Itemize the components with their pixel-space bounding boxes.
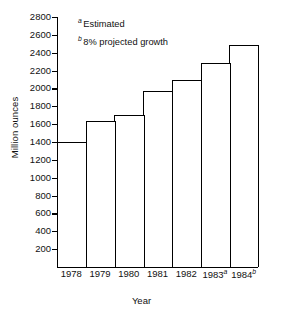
y-tick-label: 400 [35, 227, 51, 237]
y-tick-label: 2600 [30, 30, 51, 40]
bar [229, 45, 259, 267]
annotation-note: b8% projected growth [78, 32, 168, 50]
y-tick-label: 800 [35, 191, 51, 201]
y-tick-label: 2200 [30, 66, 51, 76]
y-tick-label: 1600 [30, 119, 51, 129]
bar-series [57, 17, 258, 267]
y-tick-label: 1000 [30, 173, 51, 183]
chart-annotations: aEstimatedb8% projected growth [78, 14, 168, 49]
bar [201, 63, 231, 267]
bar [57, 142, 87, 267]
x-tick-label: 1978 [61, 269, 82, 279]
bar [143, 91, 173, 267]
y-tick-label: 2800 [30, 12, 51, 22]
x-axis-title: Year [0, 295, 283, 306]
annotation-note: aEstimated [78, 14, 168, 32]
annotation-marker: b [78, 35, 82, 42]
y-tick-label: 600 [35, 209, 51, 219]
bar-chart: Million ounces 2004006008001000120014001… [0, 0, 283, 320]
x-tick-label: 1983a [202, 269, 227, 280]
x-tick-label: 1979 [89, 269, 110, 279]
x-tick-label: 1981 [147, 269, 168, 279]
bar [114, 115, 144, 267]
bar [86, 121, 116, 267]
bar [172, 80, 202, 268]
y-tick-label: 2400 [30, 48, 51, 58]
plot-area: 2004006008001000120014001600180020002200… [57, 17, 258, 267]
annotation-text: 8% projected growth [83, 37, 168, 47]
x-axis-tick-labels: 197819791980198119821983a1984b [57, 269, 258, 283]
x-tick-label: 1984b [231, 269, 256, 280]
y-tick-label: 2000 [30, 84, 51, 94]
y-tick-label: 1200 [30, 155, 51, 165]
x-tick-label: 1980 [118, 269, 139, 279]
y-tick-label: 200 [35, 244, 51, 254]
annotation-marker: a [78, 17, 82, 24]
y-axis-title: Million ounces [9, 83, 20, 173]
y-tick-label: 1800 [30, 102, 51, 112]
y-tick-label: 1400 [30, 137, 51, 147]
x-tick-label: 1982 [176, 269, 197, 279]
annotation-text: Estimated [83, 19, 124, 29]
